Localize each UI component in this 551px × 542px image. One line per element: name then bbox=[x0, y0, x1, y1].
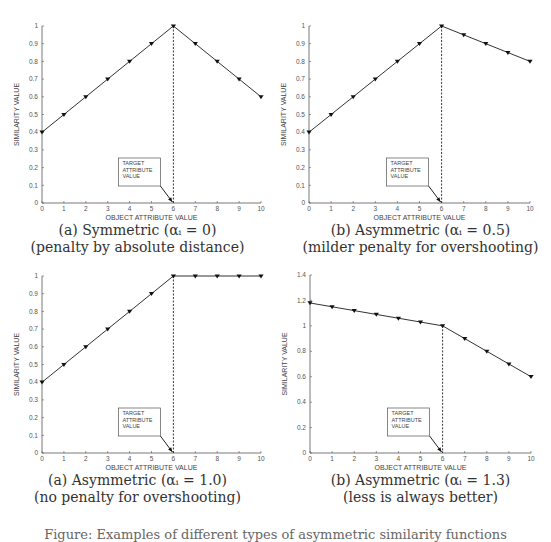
chart-a-plot: 01234567891000.10.20.30.40.50.60.70.80.9… bbox=[0, 0, 275, 235]
x-tick-label: 3 bbox=[373, 205, 377, 212]
caption-line1: (b) Asymmetric (αᵢ = 1.3) bbox=[283, 472, 551, 489]
annotation-text: TARGET bbox=[122, 160, 145, 166]
annotation-text: ATTRIBUTE bbox=[391, 167, 421, 173]
x-tick-label: 6 bbox=[440, 205, 444, 212]
y-tick-label: 1 bbox=[34, 22, 38, 29]
x-tick-label: 2 bbox=[84, 455, 88, 462]
x-tick-label: 0 bbox=[40, 205, 44, 212]
y-axis-label: SIMILARITY VALUE bbox=[280, 83, 287, 146]
x-tick-label: 8 bbox=[215, 205, 219, 212]
x-tick-label: 3 bbox=[106, 455, 110, 462]
x-tick-label: 4 bbox=[128, 455, 132, 462]
caption-line1: (a) Symmetric (αᵢ = 0) bbox=[0, 222, 275, 239]
x-tick-label: 10 bbox=[257, 205, 265, 212]
chart-panel-c: 01234567891000.10.20.30.40.50.60.70.80.9… bbox=[0, 250, 275, 505]
x-tick-label: 0 bbox=[308, 455, 312, 462]
triangle-down-marker bbox=[39, 381, 44, 385]
annotation-text: TARGET bbox=[391, 160, 414, 166]
triangle-down-marker bbox=[462, 337, 467, 341]
y-tick-label: 0.4 bbox=[29, 378, 38, 385]
y-tick-label: 0.6 bbox=[297, 373, 306, 380]
x-axis-label: OBJECT ATTRIBUTE VALUE bbox=[106, 464, 198, 471]
y-tick-label: 0.2 bbox=[29, 164, 38, 171]
triangle-down-marker bbox=[306, 131, 311, 135]
x-axis-label: OBJECT ATTRIBUTE VALUE bbox=[375, 464, 467, 471]
chart-d-plot: 01234567891000.20.40.60.811.21.4OBJECT A… bbox=[275, 250, 551, 485]
x-tick-label: 5 bbox=[150, 455, 154, 462]
x-tick-label: 8 bbox=[485, 455, 489, 462]
x-tick-label: 1 bbox=[62, 455, 66, 462]
y-tick-label: 1.2 bbox=[297, 297, 306, 304]
y-tick-label: 0.8 bbox=[29, 58, 38, 65]
y-tick-label: 0.9 bbox=[29, 290, 38, 297]
annotation-text: VALUE bbox=[391, 173, 409, 179]
x-tick-label: 5 bbox=[150, 205, 154, 212]
x-tick-label: 9 bbox=[237, 205, 241, 212]
y-tick-label: 1.4 bbox=[297, 271, 306, 278]
x-tick-label: 2 bbox=[352, 455, 356, 462]
y-tick-label: 0.8 bbox=[296, 58, 305, 65]
caption-line1: (b) Asymmetric (αᵢ = 0.5) bbox=[283, 222, 551, 239]
y-tick-label: 1 bbox=[302, 322, 306, 329]
x-tick-label: 10 bbox=[527, 455, 535, 462]
annotation-text: VALUE bbox=[122, 423, 140, 429]
annotation-text: ATTRIBUTE bbox=[122, 167, 152, 173]
y-tick-label: 0 bbox=[34, 199, 38, 206]
x-tick-label: 10 bbox=[257, 455, 265, 462]
chart-panel-a: 01234567891000.10.20.30.40.50.60.70.80.9… bbox=[0, 0, 275, 255]
x-tick-label: 1 bbox=[62, 205, 66, 212]
y-tick-label: 0.6 bbox=[296, 93, 305, 100]
x-tick-label: 7 bbox=[462, 205, 466, 212]
y-tick-label: 0.5 bbox=[29, 111, 38, 118]
annotation-text: VALUE bbox=[392, 423, 410, 429]
y-tick-label: 0.7 bbox=[29, 325, 38, 332]
y-tick-label: 0.4 bbox=[29, 128, 38, 135]
annotation-text: TARGET bbox=[122, 410, 145, 416]
chart-b-plot: 01234567891000.10.20.30.40.50.60.70.80.9… bbox=[275, 0, 551, 235]
chart-c-caption: (a) Asymmetric (αᵢ = 1.0) (no penalty fo… bbox=[0, 472, 275, 506]
y-tick-label: 1 bbox=[34, 272, 38, 279]
y-tick-label: 0.9 bbox=[29, 40, 38, 47]
y-tick-label: 0.7 bbox=[29, 75, 38, 82]
annotation-text: VALUE bbox=[122, 173, 140, 179]
y-tick-label: 0 bbox=[301, 199, 305, 206]
y-tick-label: 0.6 bbox=[29, 343, 38, 350]
x-tick-label: 6 bbox=[441, 455, 445, 462]
triangle-down-marker bbox=[506, 362, 511, 366]
x-tick-label: 7 bbox=[193, 455, 197, 462]
x-tick-label: 6 bbox=[172, 455, 176, 462]
annotation-text: TARGET bbox=[392, 410, 415, 416]
x-axis-label: OBJECT ATTRIBUTE VALUE bbox=[106, 214, 198, 221]
y-axis-label: SIMILARITY VALUE bbox=[13, 83, 20, 146]
x-tick-label: 3 bbox=[106, 205, 110, 212]
caption-line2: (no penalty for overshooting) bbox=[0, 489, 275, 506]
chart-c-plot: 01234567891000.10.20.30.40.50.60.70.80.9… bbox=[0, 250, 275, 485]
x-tick-label: 0 bbox=[40, 455, 44, 462]
y-tick-label: 0.2 bbox=[296, 164, 305, 171]
x-tick-label: 4 bbox=[396, 205, 400, 212]
x-tick-label: 4 bbox=[128, 205, 132, 212]
y-tick-label: 0.4 bbox=[297, 398, 306, 405]
chart-panel-d: 01234567891000.20.40.60.811.21.4OBJECT A… bbox=[275, 250, 550, 505]
y-tick-label: 0.1 bbox=[296, 182, 305, 189]
triangle-down-marker bbox=[528, 375, 533, 379]
y-tick-label: 0.5 bbox=[29, 361, 38, 368]
x-tick-label: 2 bbox=[351, 205, 355, 212]
y-tick-label: 0.9 bbox=[296, 40, 305, 47]
x-tick-label: 7 bbox=[193, 205, 197, 212]
x-tick-label: 5 bbox=[418, 205, 422, 212]
x-tick-label: 1 bbox=[330, 455, 334, 462]
y-tick-label: 0 bbox=[34, 449, 38, 456]
x-tick-label: 9 bbox=[507, 455, 511, 462]
y-tick-label: 0.1 bbox=[29, 182, 38, 189]
y-tick-label: 0.6 bbox=[29, 93, 38, 100]
x-tick-label: 1 bbox=[329, 205, 333, 212]
y-tick-label: 0.8 bbox=[29, 308, 38, 315]
y-axis-label: SIMILARITY VALUE bbox=[281, 332, 288, 395]
x-tick-label: 4 bbox=[397, 455, 401, 462]
x-tick-label: 6 bbox=[172, 205, 176, 212]
y-tick-label: 0.7 bbox=[296, 75, 305, 82]
triangle-down-marker bbox=[527, 60, 532, 64]
y-tick-label: 1 bbox=[301, 22, 305, 29]
series-line bbox=[42, 276, 261, 382]
